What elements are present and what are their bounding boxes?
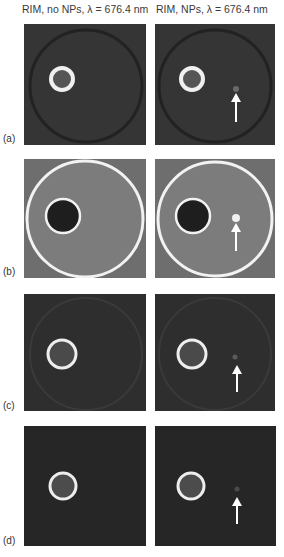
panel-a-nps bbox=[155, 24, 275, 145]
panel-a-no-nps bbox=[24, 24, 146, 145]
panel-b-no-nps bbox=[24, 159, 146, 278]
panel-b-nps bbox=[155, 159, 275, 278]
panel-d-nps bbox=[155, 426, 276, 546]
column-title-no-nps: RIM, no NPs, λ = 676.4 nm bbox=[22, 3, 148, 15]
panel-d-no-nps bbox=[24, 426, 146, 546]
column-title-nps: RIM, NPs, λ = 676.4 nm bbox=[156, 3, 268, 15]
row-label-a: (a) bbox=[3, 133, 15, 144]
panel-c-no-nps bbox=[24, 294, 146, 411]
panel-c-nps bbox=[155, 294, 275, 411]
row-label-d: (d) bbox=[3, 535, 15, 546]
row-label-c: (c) bbox=[3, 400, 15, 411]
row-label-b: (b) bbox=[3, 266, 15, 277]
